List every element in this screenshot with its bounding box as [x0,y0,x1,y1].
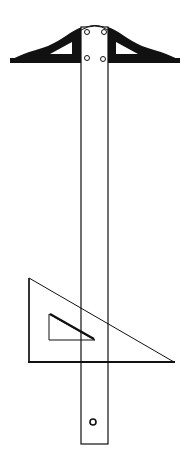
screw [101,57,106,62]
screw [102,30,107,35]
screw [85,56,90,61]
t-square-blade [81,27,108,444]
screw [85,30,90,35]
hanging-hole [90,419,96,425]
t-square-illustration [0,0,193,475]
